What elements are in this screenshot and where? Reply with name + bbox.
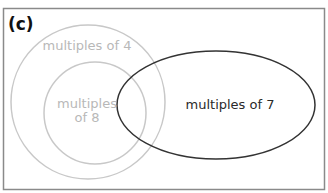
label-multiples-of-7: multiples of 7 [186,97,275,112]
label-multiples-of-8-line2: of 8 [75,110,100,125]
venn-diagram: (c) multiples of 4 multiples of 8 multip… [0,0,328,193]
label-multiples-of-8-line1: multiples [57,96,117,111]
universal-set-frame [4,9,325,190]
label-multiples-of-4: multiples of 4 [43,38,132,53]
figure-label: (c) [8,14,34,34]
